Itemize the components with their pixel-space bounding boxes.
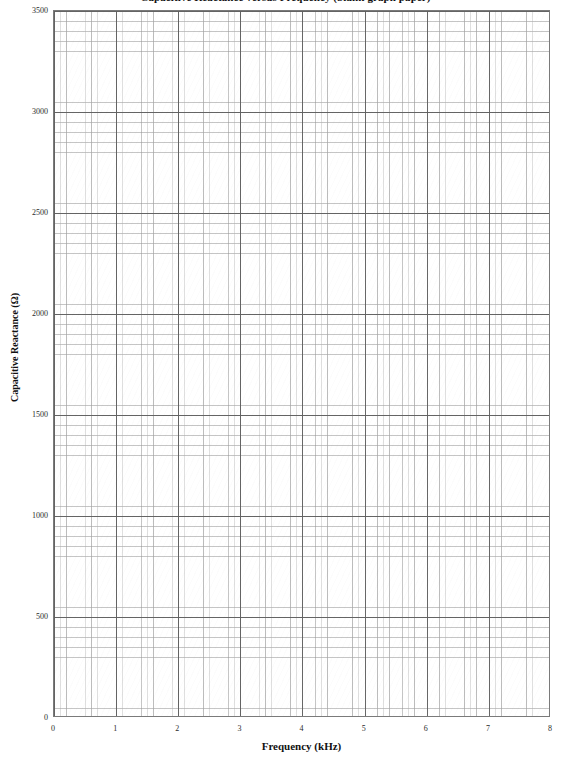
y-axis-tick-0: 0: [8, 713, 48, 722]
data-series-layer: [54, 11, 551, 718]
y-axis-tick-1: 500: [8, 612, 48, 621]
y-axis-tick-7: 3500: [8, 6, 48, 15]
y-axis-tick-5: 2500: [8, 208, 48, 217]
x-axis-tick-7: 7: [473, 724, 503, 733]
x-axis-tick-3: 3: [224, 724, 254, 733]
x-axis-tick-6: 6: [411, 724, 441, 733]
x-axis-tick-2: 2: [162, 724, 192, 733]
x-axis-tick-labels: 012345678: [53, 724, 550, 736]
y-axis-label: Capacitive Reactance (Ω): [9, 248, 20, 448]
y-axis-tick-2: 1000: [8, 511, 48, 520]
chart-title: Capacitive Reactance versus Frequency (b…: [0, 0, 571, 3]
x-axis-label: Frequency (kHz): [53, 740, 550, 752]
x-axis-tick-4: 4: [287, 724, 317, 733]
x-axis-tick-5: 5: [349, 724, 379, 733]
chart-figure: Capacitive Reactance versus Frequency (b…: [0, 0, 571, 759]
x-axis-tick-1: 1: [100, 724, 130, 733]
x-axis-tick-0: 0: [38, 724, 68, 733]
x-axis-tick-8: 8: [535, 724, 565, 733]
plot-area: [53, 10, 550, 717]
y-axis-tick-6: 3000: [8, 107, 48, 116]
